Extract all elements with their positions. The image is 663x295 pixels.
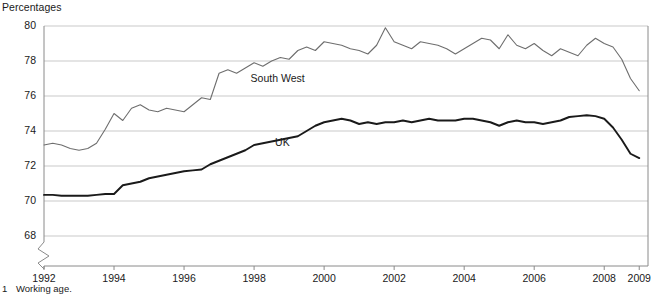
data-series xyxy=(44,28,639,196)
x-tick-label: 2000 xyxy=(304,272,344,284)
chart-axes xyxy=(38,26,648,269)
x-tick-label: 1994 xyxy=(94,272,134,284)
footnote-text: Working age. xyxy=(16,283,72,294)
x-tick-label: 2004 xyxy=(444,272,484,284)
x-tick-label: 2006 xyxy=(514,272,554,284)
y-tick-label: 68 xyxy=(10,229,36,241)
y-tick-label: 70 xyxy=(10,194,36,206)
y-tick-label: 72 xyxy=(10,159,36,171)
y-tick-label: 78 xyxy=(10,54,36,66)
chart-container: Percentages 68707274767880 1992199419961… xyxy=(0,0,663,295)
x-tick-label: 1998 xyxy=(234,272,274,284)
gridlines xyxy=(44,26,648,236)
series-line-south-west xyxy=(44,28,639,151)
series-label-south-west: South West xyxy=(251,72,305,84)
y-axis-break-symbol xyxy=(38,242,49,269)
y-tick-label: 76 xyxy=(10,89,36,101)
x-tick-label: 2008 xyxy=(584,272,624,284)
x-tick-label: 1996 xyxy=(164,272,204,284)
y-tick-label: 74 xyxy=(10,124,36,136)
y-tick-label: 80 xyxy=(10,19,36,31)
footnote-marker: 1 xyxy=(2,283,7,294)
x-tick-label: 2002 xyxy=(374,272,414,284)
series-line-uk xyxy=(44,115,639,196)
series-label-uk: UK xyxy=(275,136,290,148)
line-chart-plot xyxy=(0,0,663,295)
x-axis-ticks xyxy=(44,266,639,270)
x-tick-label: 2009 xyxy=(619,272,659,284)
